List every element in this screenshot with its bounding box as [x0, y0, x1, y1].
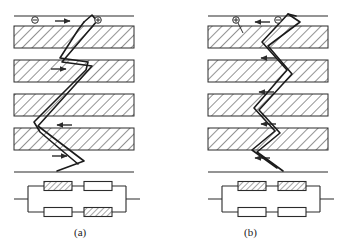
- hatched-band: [14, 94, 134, 116]
- resistor-bottom-left: [238, 208, 266, 217]
- hatched-band: [208, 26, 328, 48]
- hatched-band: [14, 128, 134, 150]
- panel-a-circuit: [14, 182, 140, 217]
- hatched-band: [208, 94, 328, 116]
- resistor-bottom-left: [44, 208, 72, 217]
- panel-b-layer-stack: [208, 16, 328, 172]
- panel-b: [208, 14, 334, 217]
- resistor-top-left: [44, 182, 72, 191]
- terminal-plus: [233, 17, 240, 24]
- resistor-bottom-right: [84, 208, 112, 217]
- resistor-bottom-right: [278, 208, 306, 217]
- hatched-band: [208, 128, 328, 150]
- terminal-minus: [275, 17, 282, 24]
- panel-a: [14, 15, 140, 217]
- hatched-band: [208, 60, 328, 82]
- resistor-top-left: [238, 182, 266, 191]
- resistor-top-right: [84, 182, 112, 191]
- terminal-plus: [95, 17, 102, 24]
- panel-a-caption: (a): [74, 226, 86, 238]
- figure-canvas: [0, 0, 342, 245]
- panel-b-circuit: [208, 182, 334, 217]
- resistor-top-right: [278, 182, 306, 191]
- panel-a-terminals: [32, 17, 102, 24]
- terminal-minus: [32, 17, 39, 24]
- panel-b-caption: (b): [244, 226, 257, 238]
- panel-a-layer-stack: [14, 16, 134, 172]
